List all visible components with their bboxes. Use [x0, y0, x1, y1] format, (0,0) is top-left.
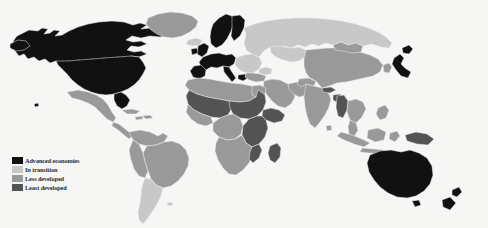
- legend-swatch-advanced: [12, 157, 23, 164]
- island-hawaii: [34, 103, 39, 107]
- region-caucasus: [259, 67, 272, 75]
- legend-label-least-developed: Least developed: [25, 184, 67, 191]
- legend-label-transition: In transition: [25, 166, 57, 173]
- legend-label-advanced: Advanced economies: [25, 157, 79, 164]
- legend-item-less-developed[interactable]: Less developed: [12, 174, 94, 183]
- legend-item-advanced[interactable]: Advanced economies: [12, 156, 94, 165]
- island-sri-lanka: [326, 125, 332, 131]
- legend-label-less-developed: Less developed: [25, 175, 64, 182]
- map-canvas: [0, 0, 488, 228]
- legend-swatch-transition: [12, 166, 23, 173]
- legend-item-transition[interactable]: In transition: [12, 165, 94, 174]
- world-map-figure: Advanced economies In transition Less de…: [0, 0, 488, 228]
- island-cuba-small: [135, 116, 143, 120]
- legend-item-least-developed[interactable]: Least developed: [12, 183, 94, 192]
- legend-swatch-less-developed: [12, 175, 23, 182]
- map-legend: Advanced economies In transition Less de…: [12, 156, 94, 192]
- island-falklands: [167, 202, 173, 206]
- legend-swatch-least-developed: [12, 184, 23, 191]
